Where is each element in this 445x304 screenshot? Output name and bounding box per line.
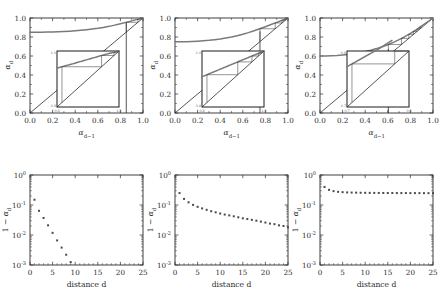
x-tick-label: 0.8 [405, 116, 417, 125]
y-tick-label: 100 [159, 170, 171, 180]
x-axis-label: distance d [212, 280, 252, 289]
inset-cobweb [352, 51, 409, 103]
inset-map-curve [347, 41, 392, 67]
data-point [382, 192, 384, 194]
y-tick-label: 0.6 [305, 52, 317, 61]
data-point [328, 189, 330, 191]
inset-y-tick-label-bottom: 0.7 [341, 104, 346, 108]
data-point [396, 192, 398, 194]
y-tick-label: 10-2 [12, 230, 26, 240]
y-tick-label: 0.4 [15, 71, 27, 80]
data-point [337, 191, 339, 193]
y-tick-label: 100 [304, 170, 316, 180]
data-point [206, 209, 208, 211]
data-point [43, 217, 45, 219]
x-tick-label: 0.8 [260, 116, 272, 125]
data-point [251, 219, 253, 221]
data-point [47, 224, 49, 226]
plot-bottom-right: 051015202510010-110-210-3distance d1 − α… [0, 0, 445, 304]
y-tick-label: 10-3 [157, 260, 171, 270]
data-point [324, 186, 326, 188]
y-axis-label: αd [293, 60, 304, 69]
inset-y-tick-label-bottom: 0.8 [196, 104, 201, 108]
y-tick-label: 1.0 [160, 14, 172, 23]
identity-diagonal [30, 18, 143, 113]
inset-map-curve [57, 51, 119, 68]
x-tick-label: 0.4 [69, 116, 81, 125]
data-point [228, 214, 230, 216]
data-point [192, 204, 194, 206]
identity-diagonal [175, 18, 288, 113]
plot-frame [320, 18, 433, 113]
x-tick-label: 1.0 [137, 116, 149, 125]
y-tick-label: 10-2 [302, 230, 316, 240]
data-point [282, 225, 284, 227]
x-tick-label: 15 [238, 268, 248, 277]
plot-top-left: 0.00.20.40.60.81.00.00.20.40.60.81.01.00… [0, 0, 445, 304]
y-tick-label: 0.4 [305, 71, 317, 80]
plot-top-right: 0.00.20.40.60.81.00.00.20.40.60.81.00.80… [0, 0, 445, 304]
x-tick-label: 0 [318, 268, 323, 277]
y-tick-label: 0.0 [305, 109, 317, 118]
data-point [269, 223, 271, 225]
data-point [373, 192, 375, 194]
x-tick-label: 5 [50, 268, 55, 277]
data-point [346, 191, 348, 193]
data-point [409, 192, 411, 194]
x-tick-label: 20 [406, 268, 416, 277]
data-point [405, 192, 407, 194]
data-point [287, 226, 289, 228]
data-point [414, 192, 416, 194]
data-point [224, 214, 226, 216]
map-curve [320, 18, 433, 56]
data-point [219, 213, 221, 215]
x-tick-label: 0.6 [237, 116, 249, 125]
data-point [364, 192, 366, 194]
plot-frame [30, 175, 143, 265]
inset-map-curve [202, 51, 264, 77]
plot-frame [30, 18, 143, 113]
x-tick-label: 10 [361, 268, 371, 277]
inset-cobweb [62, 51, 119, 103]
x-tick-label: 0 [173, 268, 178, 277]
x-tick-label: 25 [283, 268, 293, 277]
y-tick-label: 100 [14, 170, 26, 180]
y-tick-label: 1.0 [305, 14, 317, 23]
x-tick-label: 0 [28, 268, 33, 277]
data-point [215, 211, 217, 213]
y-tick-label: 10-3 [302, 260, 316, 270]
x-tick-label: 0.2 [337, 116, 348, 125]
inset-y-tick-label-bottom: 0.8 [51, 104, 56, 108]
cobweb-main [260, 18, 288, 41]
data-point [201, 207, 203, 209]
data-point [391, 192, 393, 194]
data-point [70, 261, 72, 263]
plot-frame [175, 18, 288, 113]
y-axis-label: 1 − αd [146, 207, 157, 232]
x-tick-label: 1.0 [282, 116, 294, 125]
data-point [432, 192, 434, 194]
data-point [355, 192, 357, 194]
data-point [34, 199, 36, 201]
data-point [233, 215, 235, 217]
data-point [378, 192, 380, 194]
y-tick-label: 0.4 [160, 71, 172, 80]
plot-bottom-middle: 051015202510010-110-210-3distance d1 − α… [0, 0, 445, 304]
data-point [52, 232, 54, 234]
x-tick-label: 0.6 [382, 116, 394, 125]
x-tick-label: 0.0 [24, 116, 36, 125]
inset-y-tick-label-top: 1.0 [196, 51, 201, 55]
data-point [61, 247, 63, 249]
y-tick-label: 0.6 [160, 52, 172, 61]
y-tick-label: 0.2 [305, 90, 316, 99]
y-tick-label: 0.6 [15, 52, 27, 61]
data-point [387, 192, 389, 194]
data-series [34, 199, 72, 263]
x-tick-label: 5 [340, 268, 345, 277]
x-axis-label: αd−1 [369, 128, 386, 139]
data-point [260, 221, 262, 223]
data-point [242, 217, 244, 219]
plot-frame [320, 175, 433, 265]
inset-x-tick-label-left: 0.8 [199, 109, 204, 113]
inset-cobweb [207, 51, 264, 102]
